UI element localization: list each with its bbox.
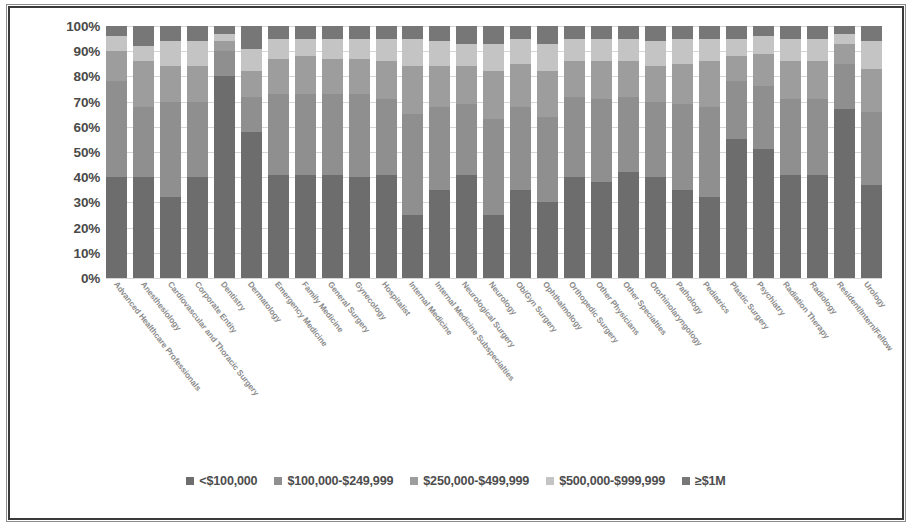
bar-segment[interactable]: [402, 66, 423, 114]
bar-segment[interactable]: [861, 69, 882, 112]
bar-segment[interactable]: [618, 26, 639, 39]
bar-segment[interactable]: [133, 107, 154, 178]
bar-segment[interactable]: [807, 39, 828, 62]
bar-segment[interactable]: [672, 64, 693, 104]
bar-segment[interactable]: [726, 39, 747, 57]
stacked-bar[interactable]: [618, 26, 639, 278]
bar-segment[interactable]: [807, 99, 828, 175]
bar-segment[interactable]: [726, 56, 747, 81]
stacked-bar[interactable]: [456, 26, 477, 278]
bar-segment[interactable]: [645, 177, 666, 278]
bar-segment[interactable]: [322, 94, 343, 175]
bar-segment[interactable]: [402, 26, 423, 39]
bar-segment[interactable]: [483, 26, 504, 44]
bar-segment[interactable]: [807, 175, 828, 278]
stacked-bar[interactable]: [349, 26, 370, 278]
stacked-bar[interactable]: [106, 26, 127, 278]
stacked-bar[interactable]: [241, 26, 262, 278]
bar-segment[interactable]: [214, 34, 235, 42]
stacked-bar[interactable]: [699, 26, 720, 278]
bar-segment[interactable]: [861, 26, 882, 41]
bar-segment[interactable]: [429, 26, 450, 41]
bar-segment[interactable]: [564, 177, 585, 278]
bar-segment[interactable]: [780, 39, 801, 62]
bar-segment[interactable]: [214, 41, 235, 51]
legend-item[interactable]: <$100,000: [186, 474, 257, 488]
bar-segment[interactable]: [807, 26, 828, 39]
bar-segment[interactable]: [456, 175, 477, 278]
bar-segment[interactable]: [834, 44, 855, 64]
bar-segment[interactable]: [268, 94, 289, 175]
stacked-bar[interactable]: [160, 26, 181, 278]
stacked-bar[interactable]: [780, 26, 801, 278]
bar-segment[interactable]: [187, 66, 208, 101]
bar-segment[interactable]: [699, 61, 720, 106]
bar-segment[interactable]: [618, 172, 639, 278]
stacked-bar[interactable]: [591, 26, 612, 278]
bar-segment[interactable]: [780, 175, 801, 278]
bar-segment[interactable]: [295, 175, 316, 278]
bar-segment[interactable]: [402, 39, 423, 67]
bar-segment[interactable]: [834, 26, 855, 34]
bar-segment[interactable]: [376, 26, 397, 39]
bar-segment[interactable]: [429, 190, 450, 278]
stacked-bar[interactable]: [834, 26, 855, 278]
stacked-bar[interactable]: [564, 26, 585, 278]
bar-segment[interactable]: [645, 102, 666, 178]
bar-segment[interactable]: [861, 185, 882, 278]
bar-segment[interactable]: [106, 177, 127, 278]
stacked-bar[interactable]: [483, 26, 504, 278]
bar-segment[interactable]: [672, 39, 693, 64]
bar-segment[interactable]: [834, 64, 855, 109]
bar-segment[interactable]: [456, 104, 477, 175]
stacked-bar[interactable]: [214, 26, 235, 278]
bar-segment[interactable]: [268, 26, 289, 39]
bar-segment[interactable]: [160, 41, 181, 66]
bar-segment[interactable]: [187, 177, 208, 278]
bar-segment[interactable]: [429, 107, 450, 190]
bar-segment[interactable]: [295, 26, 316, 39]
bar-segment[interactable]: [726, 139, 747, 278]
bar-segment[interactable]: [349, 177, 370, 278]
bar-segment[interactable]: [564, 39, 585, 62]
bar-segment[interactable]: [349, 39, 370, 59]
bar-segment[interactable]: [376, 175, 397, 278]
stacked-bar[interactable]: [133, 26, 154, 278]
bar-segment[interactable]: [753, 26, 774, 36]
bar-segment[interactable]: [456, 66, 477, 104]
bar-segment[interactable]: [510, 190, 531, 278]
stacked-bar[interactable]: [753, 26, 774, 278]
bar-segment[interactable]: [133, 26, 154, 46]
bar-segment[interactable]: [564, 97, 585, 178]
bar-segment[interactable]: [133, 61, 154, 106]
legend-item[interactable]: $500,000-$999,999: [546, 474, 665, 488]
bar-segment[interactable]: [510, 107, 531, 190]
bar-segment[interactable]: [834, 34, 855, 44]
bar-segment[interactable]: [618, 97, 639, 173]
bar-segment[interactable]: [780, 99, 801, 175]
bar-segment[interactable]: [483, 71, 504, 119]
stacked-bar[interactable]: [402, 26, 423, 278]
bar-segment[interactable]: [537, 202, 558, 278]
bar-segment[interactable]: [753, 149, 774, 278]
bar-segment[interactable]: [295, 94, 316, 175]
bar-segment[interactable]: [699, 26, 720, 39]
bar-segment[interactable]: [753, 54, 774, 87]
bar-segment[interactable]: [429, 41, 450, 66]
bar-segment[interactable]: [645, 66, 666, 101]
bar-segment[interactable]: [241, 132, 262, 278]
bar-segment[interactable]: [834, 109, 855, 278]
bar-segment[interactable]: [214, 26, 235, 34]
bar-segment[interactable]: [160, 26, 181, 41]
bar-segment[interactable]: [268, 59, 289, 94]
bar-segment[interactable]: [187, 26, 208, 41]
bar-segment[interactable]: [106, 26, 127, 36]
stacked-bar[interactable]: [429, 26, 450, 278]
bar-segment[interactable]: [726, 81, 747, 139]
bar-segment[interactable]: [483, 44, 504, 72]
legend-item[interactable]: $100,000-$249,999: [274, 474, 393, 488]
bar-segment[interactable]: [564, 61, 585, 96]
bar-segment[interactable]: [591, 61, 612, 99]
bar-segment[interactable]: [349, 26, 370, 39]
bar-segment[interactable]: [537, 71, 558, 116]
